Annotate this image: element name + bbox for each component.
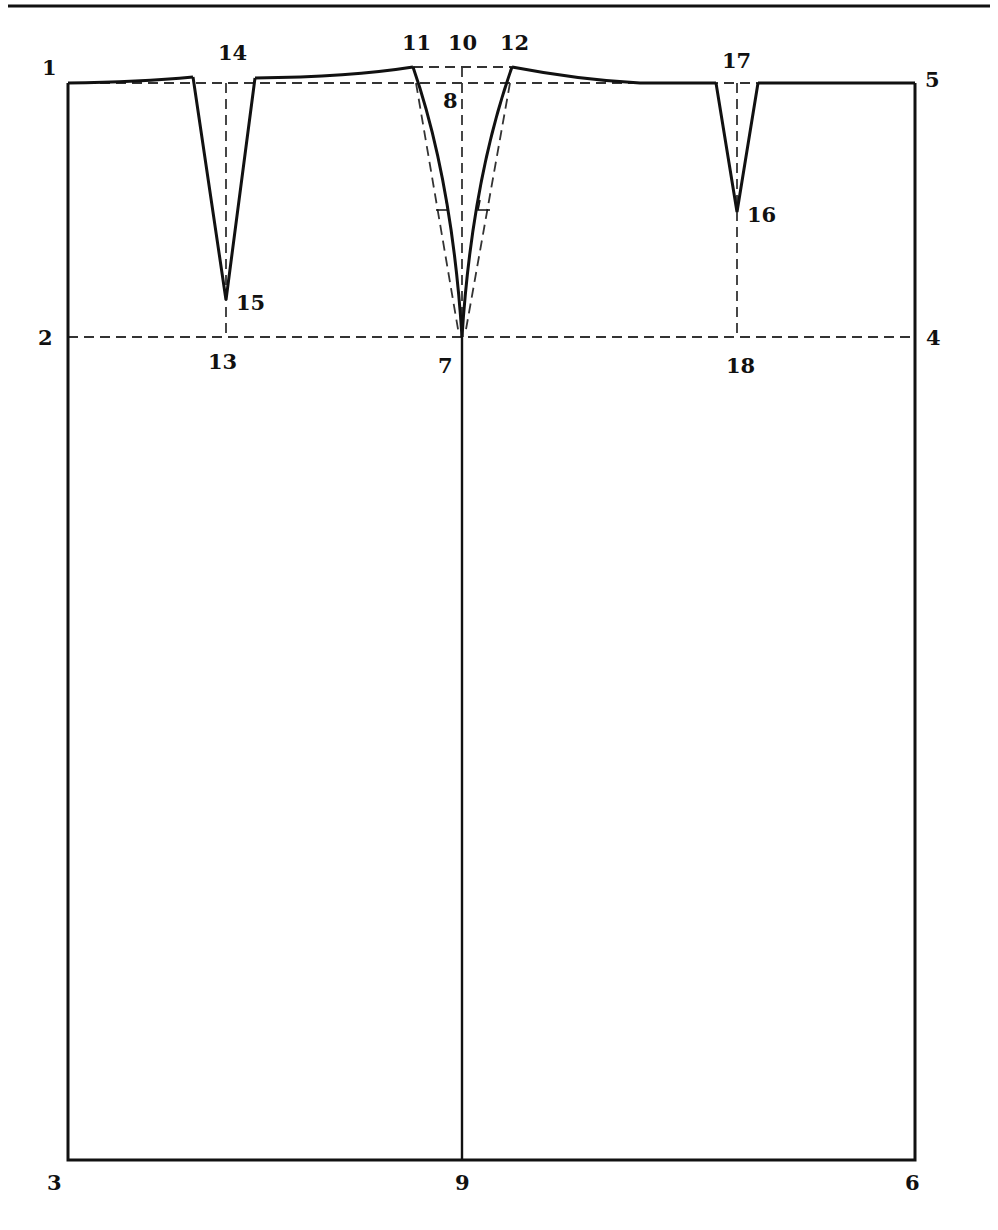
construction-lines	[68, 67, 915, 337]
label-point-1: 1	[42, 55, 57, 80]
label-point-14: 14	[218, 40, 247, 65]
side-guide-left	[416, 83, 459, 335]
dart-14-15	[193, 77, 255, 300]
outline-left-bottom-right	[68, 83, 915, 1160]
side-seam-right	[462, 67, 512, 337]
label-point-11: 11	[402, 30, 431, 55]
label-point-3: 3	[47, 1170, 62, 1195]
label-point-17: 17	[722, 48, 751, 73]
label-point-18: 18	[726, 353, 755, 378]
pattern-outline	[68, 67, 915, 1160]
label-point-13: 13	[208, 349, 237, 374]
skirt-pattern-diagram: 1 2 3 4 5 6 7 8 9 10 11 12 13 14 15 16 1…	[0, 0, 998, 1230]
waist-segment-2	[255, 67, 413, 78]
side-guide-right	[465, 83, 510, 335]
label-point-12: 12	[500, 30, 529, 55]
label-point-10: 10	[448, 30, 477, 55]
label-point-7: 7	[438, 353, 453, 378]
label-point-9: 9	[455, 1170, 470, 1195]
label-point-5: 5	[925, 67, 940, 92]
waist-segment-1	[68, 77, 193, 83]
label-point-2: 2	[38, 325, 53, 350]
right-angle-marks	[436, 200, 490, 210]
label-point-15: 15	[236, 290, 265, 315]
label-point-6: 6	[905, 1170, 920, 1195]
label-point-8: 8	[443, 88, 458, 113]
label-point-4: 4	[926, 325, 941, 350]
label-point-16: 16	[747, 202, 776, 227]
point-labels: 1 2 3 4 5 6 7 8 9 10 11 12 13 14 15 16 1…	[38, 30, 941, 1195]
waist-segment-3	[512, 67, 716, 83]
